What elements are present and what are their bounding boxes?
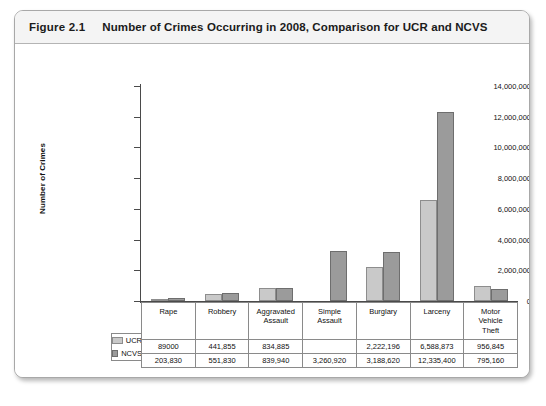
table-cell-ncvs-motor-vehicle-theft: 795,160: [464, 354, 518, 368]
y-axis-tick: [134, 178, 140, 179]
y-axis-tick: [134, 301, 140, 302]
bar-ucr-rape: [151, 299, 168, 301]
plot-area: [141, 86, 518, 301]
table-cell-ucr-rape: 89000: [142, 340, 196, 354]
table-header-larceny: Larceny: [410, 303, 464, 340]
bar-chart: Number of Crimes 02,000,0004,000,0006,00…: [15, 44, 530, 378]
bar-ucr-larceny: [420, 200, 437, 301]
figure-title: Number of Crimes Occurring in 2008, Comp…: [102, 21, 487, 33]
bar-ncvs-simple-assault: [330, 251, 347, 301]
table-cell-ucr-aggravated-assault: 834,885: [249, 340, 303, 354]
table-cell-ucr-motor-vehicle-theft: 956,845: [464, 340, 518, 354]
legend-swatch-ucr-icon: [112, 337, 123, 344]
table-row: 203,830551,830839,9403,260,9203,188,6201…: [142, 354, 518, 368]
table-header-row: RapeRobberyAggravatedAssaultSimpleAssaul…: [142, 303, 518, 340]
bar-ncvs-aggravated-assault: [276, 288, 293, 301]
table-cell-ucr-burglary: 2,222,196: [356, 340, 410, 354]
table-header-simple-assault: SimpleAssault: [303, 303, 357, 340]
y-axis-tick: [134, 86, 140, 87]
table-header-burglary: Burglary: [356, 303, 410, 340]
y-axis-tick: [134, 270, 140, 271]
y-axis-title: Number of Crimes: [38, 119, 47, 239]
bar-ncvs-motor-vehicle-theft: [491, 289, 508, 301]
y-axis-tick: [134, 147, 140, 148]
legend-label-ncvs: NCVS: [121, 349, 142, 358]
figure-body: Number of Crimes 02,000,0004,000,0006,00…: [15, 44, 529, 378]
table-cell-ncvs-rape: 203,830: [142, 354, 196, 368]
figure-header: Figure 2.1 Number of Crimes Occurring in…: [15, 11, 529, 44]
table-row: 89000441,855834,8852,222,1966,588,873956…: [142, 340, 518, 354]
bar-ucr-robbery: [205, 294, 222, 301]
bar-ncvs-robbery: [222, 293, 239, 301]
table-cell-ucr-robbery: 441,855: [195, 340, 249, 354]
legend-item-ucr: UCR: [111, 334, 142, 347]
figure-number: Figure 2.1: [29, 21, 85, 33]
table-cell-ncvs-larceny: 12,335,400: [410, 354, 464, 368]
table-cell-ncvs-robbery: 551,830: [195, 354, 249, 368]
chart-legend: UCR NCVS: [111, 334, 142, 361]
legend-item-ncvs: NCVS: [111, 347, 142, 360]
bar-ucr-burglary: [366, 267, 383, 301]
table-cell-ncvs-simple-assault: 3,260,920: [303, 354, 357, 368]
y-axis-tick: [134, 117, 140, 118]
table-cell-ucr-simple-assault: [303, 340, 357, 354]
bar-ncvs-burglary: [383, 252, 400, 301]
table-header-robbery: Robbery: [195, 303, 249, 340]
bar-ncvs-rape: [168, 298, 185, 301]
table-cell-ucr-larceny: 6,588,873: [410, 340, 464, 354]
data-table: RapeRobberyAggravatedAssaultSimpleAssaul…: [141, 302, 518, 368]
y-axis-tick: [134, 209, 140, 210]
bar-ucr-motor-vehicle-theft: [474, 286, 491, 301]
legend-swatch-ncvs-icon: [112, 350, 118, 357]
table-header-motor-vehicle-theft: MotorVehicleTheft: [464, 303, 518, 340]
bar-ncvs-larceny: [437, 112, 454, 301]
legend-label-ucr: UCR: [126, 336, 142, 345]
y-axis-tick: [134, 240, 140, 241]
figure-container: Figure 2.1 Number of Crimes Occurring in…: [14, 10, 530, 378]
table-header-rape: Rape: [142, 303, 196, 340]
table-cell-ncvs-burglary: 3,188,620: [356, 354, 410, 368]
table-cell-ncvs-aggravated-assault: 839,940: [249, 354, 303, 368]
table-header-aggravated-assault: AggravatedAssault: [249, 303, 303, 340]
bar-ucr-aggravated-assault: [259, 288, 276, 301]
